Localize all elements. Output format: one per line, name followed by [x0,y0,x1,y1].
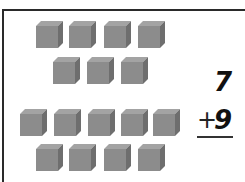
answer-line [197,136,233,138]
cube-icon [104,144,131,171]
worksheet-frame-top-border [2,9,245,11]
worksheet-frame-left-border [2,9,4,182]
cube-icon [20,109,47,136]
top-addend: 7 [214,68,232,96]
cube-icon [36,21,63,48]
cube-icon [104,21,131,48]
cube-icon [87,57,114,84]
cube-icon [121,109,148,136]
cube-icon [88,109,115,136]
cube-icon [138,21,165,48]
cube-icon [54,109,81,136]
cube-icon [153,109,180,136]
bottom-addend: 9 [214,106,232,134]
cube-icon [69,21,96,48]
cube-icon [36,144,63,171]
cube-icon [121,57,148,84]
cube-icon [138,144,165,171]
cube-icon [69,144,96,171]
cube-icon [53,57,80,84]
